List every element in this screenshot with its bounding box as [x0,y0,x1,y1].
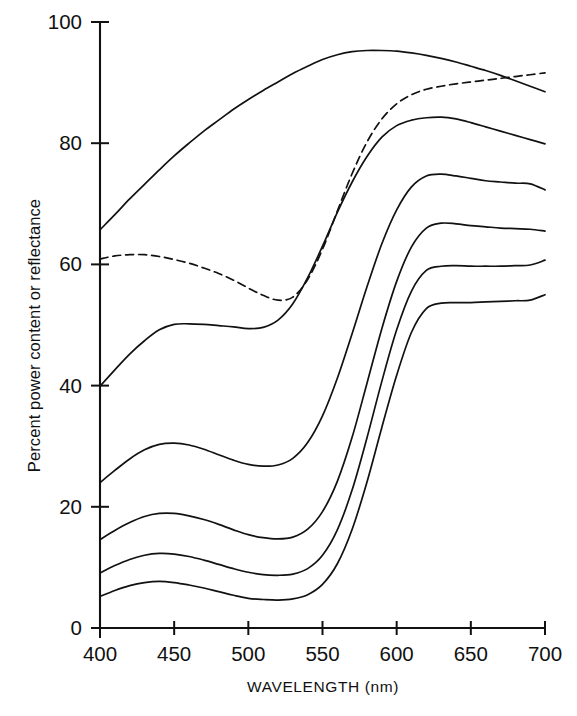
x-tick-label: 550 [305,642,339,665]
x-tick-label: 650 [454,642,488,665]
curve-5-solid [100,223,545,540]
y-axis-label: Percent power content or reflectance [25,116,44,556]
x-tick-label: 450 [157,642,191,665]
y-tick-label: 80 [59,131,82,154]
y-tick-label: 0 [71,616,82,639]
y-tick-label: 40 [59,374,82,397]
curve-4-solid [100,174,545,482]
axes [100,22,545,628]
data-curves [100,50,545,600]
x-axis-label: WAVELENGTH (nm) [100,678,546,696]
x-tick-label: 500 [231,642,265,665]
plot-area: 020406080100 400450500550600650700 [0,0,577,716]
x-tick-label: 400 [83,642,117,665]
curve-1-top-solid [100,50,545,229]
y-tick-label: 20 [59,495,82,518]
y-tick-label: 100 [48,10,82,33]
x-axis-ticks: 400450500550600650700 [83,618,562,665]
y-tick-label: 60 [59,252,82,275]
spectral-reflectance-chart: 020406080100 400450500550600650700 Perce… [0,0,577,716]
x-tick-label: 600 [380,642,414,665]
x-tick-label: 700 [528,642,562,665]
curve-3-solid [100,117,545,386]
